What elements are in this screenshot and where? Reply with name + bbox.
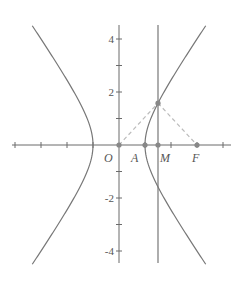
- dashed-segment: [119, 103, 158, 145]
- y-tick-label: -4: [105, 245, 115, 257]
- point-a: [142, 142, 147, 147]
- point-o: [116, 142, 121, 147]
- label-a: A: [130, 151, 139, 165]
- hyperbola-figure: 42-2-4 O A M F: [0, 0, 243, 287]
- point-f: [194, 142, 199, 147]
- dashed-segment: [158, 103, 197, 145]
- label-f: F: [191, 151, 200, 165]
- label-o: O: [104, 151, 113, 165]
- y-tick-label: 4: [109, 33, 115, 45]
- y-tick-label: -2: [105, 192, 114, 204]
- label-m: M: [159, 151, 171, 165]
- y-tick-label: 2: [109, 86, 115, 98]
- point-m: [155, 142, 160, 147]
- point-p: [155, 101, 160, 106]
